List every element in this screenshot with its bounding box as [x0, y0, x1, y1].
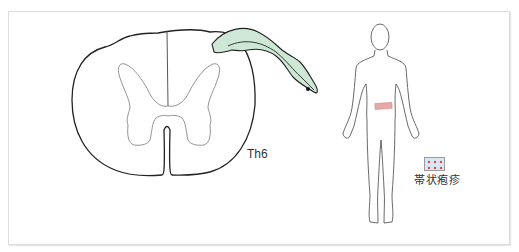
diagram-canvas [0, 0, 519, 252]
body-outline [343, 50, 419, 223]
human-body-figure [343, 24, 419, 223]
head [371, 24, 389, 50]
segment-label: Th6 [247, 147, 268, 161]
ganglion-cell-body [306, 87, 310, 91]
dermatome-band-th6 [375, 102, 392, 109]
legend-swatch [424, 157, 445, 171]
legend-label: 帯状疱疹 [414, 171, 460, 187]
